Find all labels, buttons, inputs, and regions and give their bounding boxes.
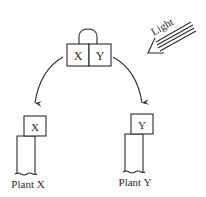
arrow-to-plant-y [113, 57, 142, 103]
source-label-x: X [74, 49, 83, 63]
box-handle [79, 29, 97, 44]
source-box: X Y [67, 29, 111, 66]
arrow-to-plant-x [35, 57, 63, 103]
plant-x-head-label: X [31, 121, 39, 133]
plant-y-name: Plant Y [119, 176, 152, 188]
plant-y: Y Plant Y [119, 114, 153, 188]
light-arrow: Light [148, 15, 196, 53]
plant-y-ground [123, 171, 145, 173]
light-label: Light [149, 15, 176, 37]
diagram-canvas: X Y Light X Plant X Y Plant Y [0, 0, 206, 197]
plant-y-stem [125, 134, 143, 172]
plant-x-ground [15, 173, 37, 175]
plant-x-stem [17, 136, 35, 174]
plant-x: X Plant X [11, 116, 46, 190]
plant-y-head-label: Y [138, 119, 146, 131]
source-label-y: Y [96, 49, 105, 63]
plant-x-name: Plant X [11, 178, 44, 190]
